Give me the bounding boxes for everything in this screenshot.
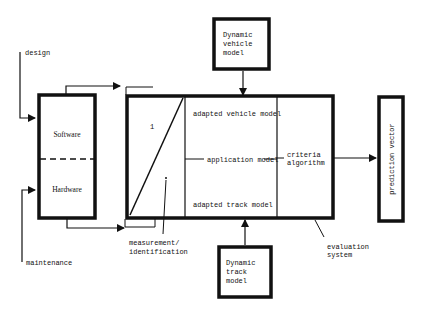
main-model-box: 1 adapted vehicle model application mode… xyxy=(127,96,333,218)
system-label: system xyxy=(327,251,352,259)
track-box-line2: track xyxy=(226,268,247,276)
vehicle-box-line2: vehicle xyxy=(223,40,252,48)
dynamic-track-model-box: Dynamic track model xyxy=(219,220,271,297)
vehicle-box-line3: model xyxy=(223,49,244,57)
vehicle-box-line1: Dynamic xyxy=(223,31,252,39)
maintenance-label: maintenance xyxy=(26,259,72,267)
prediction-vector-box: prediction vector xyxy=(379,97,403,221)
ratio-label: 1 xyxy=(150,123,154,131)
measurement-label: measurement/ xyxy=(129,239,179,247)
software-label: Software xyxy=(53,130,81,139)
software-hardware-box: Software Hardware xyxy=(39,95,95,218)
adapted-vehicle-model-label: adapted vehicle model xyxy=(193,110,281,118)
system-diagram: design maintenance Software Hardware 1 a… xyxy=(0,0,425,319)
criteria-label: criteria xyxy=(287,151,321,159)
algorithm-label: algorithm xyxy=(287,159,325,167)
feedback-loop-top xyxy=(126,87,153,95)
evaluation-label: evaluation xyxy=(327,243,369,251)
application-model-label: application model xyxy=(207,156,278,164)
dynamic-vehicle-model-box: Dynamic vehicle model xyxy=(214,19,269,95)
identification-label: identification xyxy=(129,248,188,256)
hardware-label: Hardware xyxy=(52,185,82,194)
adapted-track-model-label: adapted track model xyxy=(193,201,273,209)
prediction-vector-label: prediction vector xyxy=(388,123,396,194)
evaluation-annotation: evaluation system xyxy=(315,220,369,259)
track-box-line1: Dynamic xyxy=(226,259,255,267)
track-box-line3: model xyxy=(226,277,247,285)
design-label: design xyxy=(25,49,50,57)
